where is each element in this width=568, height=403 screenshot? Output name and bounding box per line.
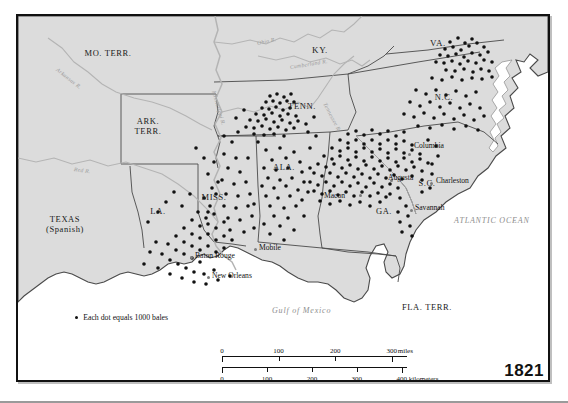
legend-text: Each dot equals 1000 bales: [83, 313, 168, 322]
cotton-dot-layer: [18, 16, 548, 380]
city-dot-macon: [359, 194, 362, 197]
year-label: 1821: [504, 361, 544, 381]
scale-bar: 0 100 200 300 miles 0 100 200 300 400 ki…: [222, 347, 407, 384]
scale-kilometers-line: [222, 367, 407, 374]
legend-dot-icon: [75, 316, 78, 319]
cotton-dots: [142, 36, 494, 286]
scale-miles-labels: 0 100 200 300 miles: [222, 347, 407, 356]
legend: Each dot equals 1000 bales: [75, 313, 168, 322]
city-dot-charleston: [430, 182, 433, 185]
city-dot-new-orleans: [207, 276, 210, 279]
map-frame: MO. TERR. ARK. TERR. TEXAS (Spanish) LA.…: [16, 14, 550, 382]
figure-root: MO. TERR. ARK. TERR. TEXAS (Spanish) LA.…: [0, 0, 568, 403]
city-dot-mobile: [254, 248, 257, 251]
scale-miles-line: [222, 356, 407, 363]
city-dot-savannah: [410, 209, 413, 212]
city-dot-augusta: [390, 179, 393, 182]
city-dot-columbia: [408, 153, 411, 156]
scale-kilometers-labels: 0 100 200 300 400 kilometers: [222, 375, 407, 384]
city-dot-baton-rouge: [190, 256, 193, 259]
